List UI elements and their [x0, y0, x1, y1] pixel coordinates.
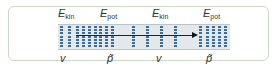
particle-dot: [160, 45, 163, 47]
particle-dot: [68, 42, 71, 44]
label-e-pot-2: Epot: [203, 8, 220, 22]
particle-dot: [146, 45, 149, 47]
particle-dot: [76, 26, 79, 28]
particle-dot: [199, 26, 202, 28]
particle-dot: [160, 42, 163, 44]
particle-dot: [99, 39, 102, 41]
particle-dot: [132, 26, 135, 28]
particle-dot: [60, 29, 63, 31]
particle-dot: [94, 29, 97, 31]
particle-dot: [76, 45, 79, 47]
particle-dot: [199, 45, 202, 47]
particle-dot: [199, 39, 202, 41]
particle-dot: [60, 32, 63, 34]
particle-column: [160, 26, 163, 48]
particle-dot: [160, 39, 163, 41]
particle-dot: [218, 29, 221, 31]
particle-column: [60, 26, 63, 48]
particle-column: [132, 26, 135, 48]
particle-column: [206, 26, 209, 48]
particle-dot: [174, 29, 177, 31]
particle-dot: [88, 42, 91, 44]
particle-dot: [206, 36, 209, 38]
particle-dot: [105, 26, 108, 28]
particle-column: [224, 26, 227, 48]
particle-column: [146, 26, 149, 48]
particle-dot: [105, 39, 108, 41]
particle-dot: [88, 39, 91, 41]
particle-dot: [111, 26, 114, 28]
particle-dot: [99, 45, 102, 47]
particle-dot: [146, 29, 149, 31]
particle-dot: [212, 39, 215, 41]
particle-dot: [111, 29, 114, 31]
particle-dot: [76, 39, 79, 41]
particle-dot: [174, 42, 177, 44]
particle-column: [199, 26, 202, 48]
particle-dot: [82, 39, 85, 41]
particle-dot: [60, 39, 63, 41]
particle-dot: [212, 26, 215, 28]
particle-dot: [60, 36, 63, 38]
particle-dot: [174, 26, 177, 28]
particle-dot: [199, 29, 202, 31]
particle-column: [68, 26, 71, 48]
particle-dot: [68, 32, 71, 34]
particle-dot: [82, 45, 85, 47]
particle-dot: [82, 42, 85, 44]
particle-dot: [76, 29, 79, 31]
particle-column: [94, 26, 97, 48]
particle-dot: [82, 26, 85, 28]
particle-dot: [206, 32, 209, 34]
particle-dot: [146, 39, 149, 41]
particle-dot: [146, 42, 149, 44]
particle-dot: [218, 39, 221, 41]
particle-dot: [105, 29, 108, 31]
particle-dot: [199, 36, 202, 38]
particle-dot: [99, 42, 102, 44]
particle-dot: [68, 26, 71, 28]
particle-dot: [218, 42, 221, 44]
particle-dot: [76, 42, 79, 44]
particle-dot: [224, 42, 227, 44]
particle-dot: [218, 36, 221, 38]
particle-dot: [160, 29, 163, 31]
particle-dot: [218, 32, 221, 34]
label-pressure-2: p̃: [206, 53, 212, 64]
particle-dot: [212, 29, 215, 31]
particle-dot: [224, 39, 227, 41]
label-e-pot-1: Epot: [100, 8, 117, 22]
particle-dot: [94, 39, 97, 41]
particle-dot: [218, 26, 221, 28]
particle-dot: [206, 29, 209, 31]
particle-dot: [199, 42, 202, 44]
particle-column: [212, 26, 215, 48]
particle-dot: [212, 45, 215, 47]
particle-column: [76, 26, 79, 48]
particle-dot: [94, 45, 97, 47]
particle-column: [88, 26, 91, 48]
label-velocity-2: v: [156, 53, 162, 64]
particle-dot: [94, 26, 97, 28]
particle-column: [218, 26, 221, 48]
particle-dot: [224, 29, 227, 31]
particle-dot: [88, 45, 91, 47]
particle-dot: [206, 45, 209, 47]
particle-dot: [199, 32, 202, 34]
label-velocity-1: v: [60, 53, 66, 64]
particle-dot: [99, 29, 102, 31]
particle-dot: [174, 39, 177, 41]
particle-dot: [111, 42, 114, 44]
particle-column: [174, 26, 177, 48]
particle-dot: [132, 39, 135, 41]
particle-dot: [105, 45, 108, 47]
particle-dot: [88, 29, 91, 31]
particle-dot: [132, 29, 135, 31]
label-pressure-1: p̃: [107, 53, 113, 64]
particle-dot: [146, 26, 149, 28]
particle-dot: [105, 42, 108, 44]
particle-dot: [68, 36, 71, 38]
particle-dot: [206, 26, 209, 28]
label-e-kin-2: Ekin: [152, 8, 168, 22]
particle-dot: [224, 45, 227, 47]
